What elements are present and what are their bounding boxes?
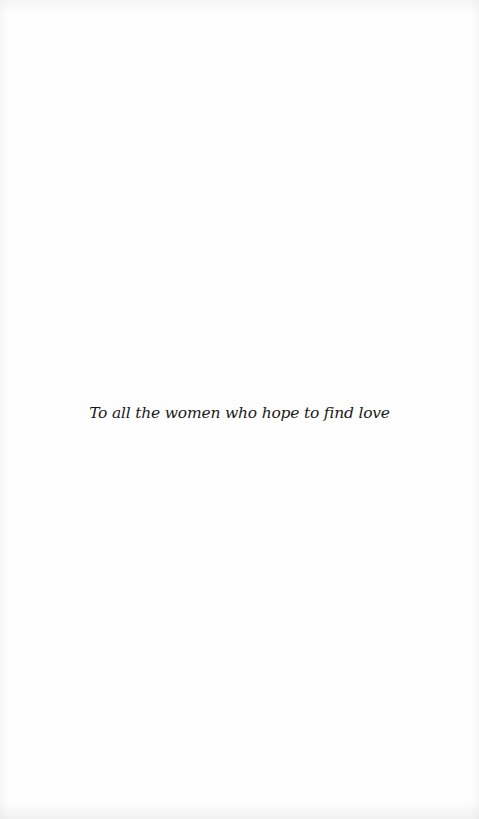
book-page: To all the women who hope to find love: [0, 0, 479, 819]
dedication-text: To all the women who hope to find love: [0, 403, 479, 423]
